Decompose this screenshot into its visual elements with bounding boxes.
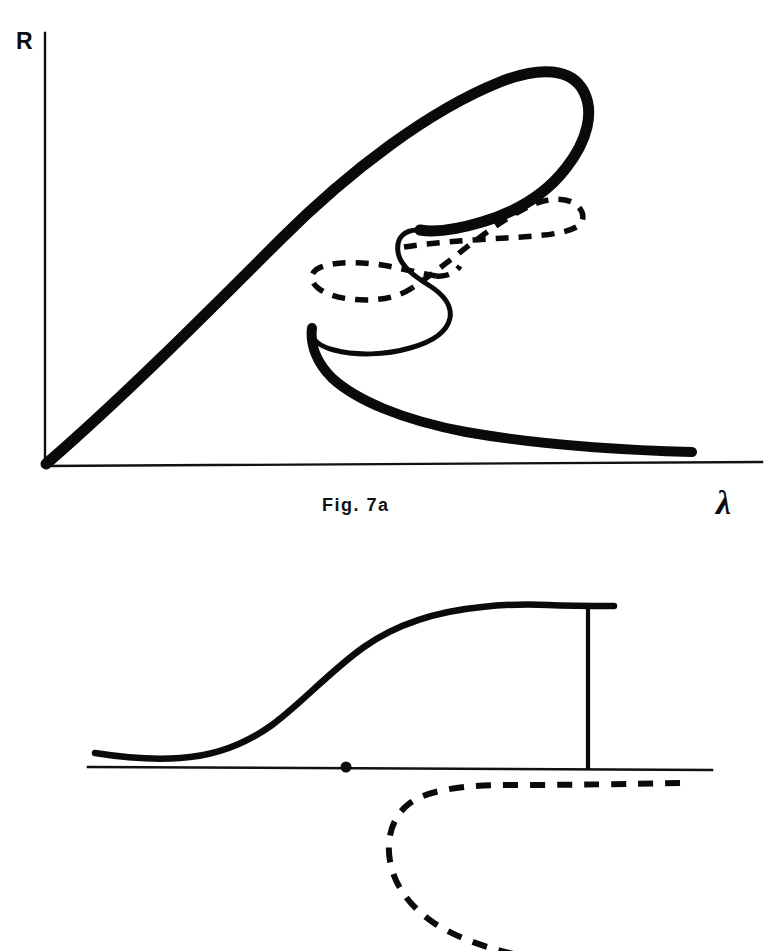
dashed-loop-tail <box>436 266 460 276</box>
s0-marker-dot <box>341 762 352 773</box>
figure-7a: R λ Fig. 7a <box>0 0 775 555</box>
lower-fold-branch <box>312 328 692 452</box>
dashed-loop-lower <box>312 263 436 300</box>
sigmoid-branch <box>95 604 614 758</box>
figure-7a-caption: Fig. 7a <box>322 495 390 516</box>
figure-7a-canvas <box>0 0 775 555</box>
s-wiggle-thin <box>312 230 451 354</box>
dashed-unstable-branch <box>389 783 680 951</box>
figure-page: R λ Fig. 7a s̃1 s0 s Fig. 7b <box>0 0 775 951</box>
horizontal-axis-line <box>88 767 712 770</box>
x-axis-line <box>44 462 762 466</box>
x-axis-label: λ <box>716 484 731 522</box>
figure-7b-canvas <box>0 555 775 951</box>
y-axis-label: R <box>16 28 33 55</box>
figure-7b: s̃1 s0 s Fig. 7b <box>0 555 775 951</box>
